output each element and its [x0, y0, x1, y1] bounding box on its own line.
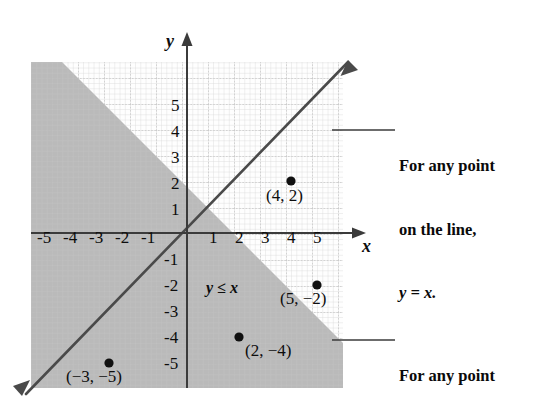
data-point-4-2: [286, 176, 295, 185]
x-tick--5: -5: [37, 229, 51, 246]
x-tick-1: 1: [209, 229, 218, 246]
region-inequality-label: y ≤ x: [206, 279, 238, 297]
y-tick-4: 4: [171, 123, 180, 140]
x-tick--2: -2: [115, 229, 129, 246]
x-tick--3: -3: [89, 229, 103, 246]
point-label-5-neg2: (5, −2): [280, 289, 326, 309]
x-tick--4: -4: [63, 229, 77, 246]
y-tick-1: 1: [171, 201, 180, 218]
x-axis-label: x: [362, 236, 371, 257]
callout-on-the-line-line2: on the line,: [399, 219, 495, 240]
callout-half-plane-line1: For any point: [399, 365, 519, 386]
point-label-neg3-neg5: (−3, −5): [66, 367, 122, 387]
x-tick-4: 4: [287, 229, 296, 246]
y-tick-2: 2: [171, 175, 180, 192]
point-label-4-2: (4, 2): [266, 186, 303, 206]
callout-on-the-line-equation: y = x.: [399, 282, 495, 303]
x-tick-5: 5: [313, 229, 322, 246]
y-tick--2: -2: [164, 277, 178, 294]
y-tick-5: 5: [171, 97, 180, 114]
callout-on-the-line: For any point on the line, y = x.: [399, 113, 495, 345]
graph-figure: y x -5 -4 -3 -2 -1 1 2 3 4 5 1 2 3 4 5 -…: [0, 0, 541, 412]
y-tick--5: -5: [164, 355, 178, 372]
y-tick--1: -1: [164, 251, 178, 268]
y-tick--3: -3: [164, 303, 178, 320]
callout-on-the-line-line1: For any point: [399, 155, 495, 176]
callout-half-plane: For any point in the half-plane, y < x.: [399, 323, 519, 412]
y-axis-label: y: [166, 31, 174, 52]
data-point-2-neg4: [234, 332, 243, 341]
x-tick-2: 2: [235, 229, 244, 246]
y-tick-3: 3: [171, 149, 180, 166]
x-tick--1: -1: [141, 229, 155, 246]
x-tick-3: 3: [261, 229, 270, 246]
y-tick--4: -4: [164, 329, 178, 346]
point-label-2-neg4: (2, −4): [245, 341, 291, 361]
